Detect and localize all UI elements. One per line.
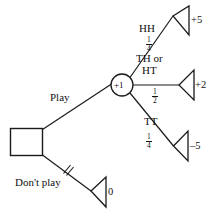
terminal-node-triangle-dont-play [91, 177, 106, 207]
branch-label-hh: HH [139, 23, 155, 34]
payoff-value-th-or-ht: +2 [195, 80, 206, 91]
decision-tree-figure: +1 Play Don't play HH TH or HT TT 1 4 1 … [0, 0, 208, 217]
payoff-value-dont-play: 0 [108, 187, 113, 198]
branch-probability-hh: 1 4 [146, 36, 152, 53]
branch-probability-hh-numerator: 1 [146, 36, 152, 44]
chance-node-value: +1 [114, 81, 124, 90]
branch-strikethrough-mark [64, 165, 74, 176]
branch-label-play: Play [50, 92, 70, 103]
branch-probability-th-or-ht: 1 2 [152, 88, 158, 105]
branch-probability-hh-denominator: 4 [146, 44, 152, 53]
terminal-node-triangle-hh [173, 6, 189, 35]
payoff-value-hh: +5 [191, 15, 202, 26]
branch-label-th-or-ht: TH or HT [136, 53, 163, 77]
decision-node-square [11, 129, 43, 156]
branch-label-tt: TT [144, 116, 157, 127]
payoff-value-tt: –5 [190, 141, 201, 152]
branch-probability-tt-denominator: 4 [146, 141, 152, 150]
branch-probability-th-or-ht-denominator: 2 [152, 96, 158, 105]
terminal-node-triangle-tt [174, 131, 189, 161]
branch-label-dont-play: Don't play [15, 177, 61, 188]
branch-label-th-or-ht-line1: TH or [136, 52, 163, 64]
branch-label-th-or-ht-line2: HT [142, 64, 157, 76]
terminal-node-triangle-th-or-ht [179, 70, 194, 100]
branch-probability-tt: 1 4 [146, 133, 152, 150]
branch-probability-tt-numerator: 1 [146, 133, 152, 141]
branch-probability-th-or-ht-numerator: 1 [152, 88, 158, 96]
